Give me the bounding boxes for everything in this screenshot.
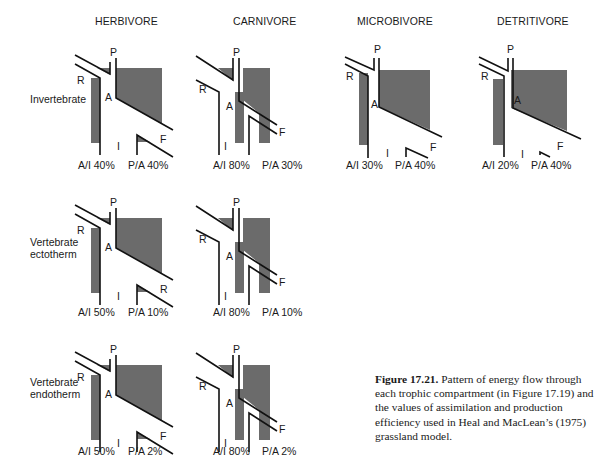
- label-bottom-right: R: [160, 283, 168, 295]
- label-r: R: [77, 74, 85, 86]
- production-efficiency-detritivore-invertebrate: P/A 40%: [531, 159, 571, 171]
- label-p: P: [374, 43, 381, 55]
- label-i: I: [224, 290, 227, 302]
- production-gray-block: [116, 218, 162, 274]
- panel-microbivore-invertebrate: RPAIF: [345, 43, 442, 159]
- assimilation-efficiency-herbivore-vertebrate-ectotherm: A/I 50%: [78, 306, 115, 318]
- label-bottom-right: F: [160, 133, 166, 145]
- label-bottom-right: F: [279, 126, 285, 138]
- label-r: R: [77, 371, 85, 383]
- assimilation-efficiency-detritivore-invertebrate: A/I 20%: [482, 159, 519, 171]
- label-i: I: [386, 147, 389, 159]
- assimilation-efficiency-herbivore-vertebrate-endotherm: A/I 50%: [78, 445, 115, 457]
- label-a: A: [226, 250, 233, 262]
- panel-carnivore-vertebrate-ectotherm: RPAIF: [196, 196, 285, 305]
- production-efficiency-carnivore-invertebrate: P/A 30%: [262, 159, 302, 171]
- label-a: A: [226, 100, 233, 112]
- feces-channel-line: [137, 135, 173, 157]
- label-bottom-right: F: [557, 140, 563, 152]
- label-r: R: [199, 380, 207, 392]
- respiration-gray-block: [493, 79, 503, 145]
- upper-channel-line: [75, 205, 110, 224]
- upper-channel-line: [75, 55, 110, 74]
- feces-channel-line: [137, 285, 173, 307]
- label-a: A: [226, 397, 233, 409]
- assimilation-efficiency-herbivore-invertebrate: A/I 40%: [78, 159, 115, 171]
- caption-label: Figure 17.21.: [375, 373, 438, 385]
- panel-herbivore-vertebrate-endotherm: RPAIF: [75, 343, 173, 454]
- assimilation-efficiency-carnivore-vertebrate-endotherm: A/I 80%: [213, 445, 250, 457]
- production-efficiency-microbivore-invertebrate: P/A 40%: [395, 159, 435, 171]
- upper-channel-line: [345, 57, 374, 70]
- panel-herbivore-invertebrate: RPAIF: [75, 46, 173, 157]
- label-r: R: [77, 224, 85, 236]
- production-gray-block: [116, 68, 162, 124]
- label-i: I: [521, 148, 524, 160]
- respiration-gray-block: [359, 73, 368, 145]
- upper-channel-line: [479, 57, 508, 71]
- panel-carnivore-vertebrate-endotherm: RPAIF: [196, 343, 285, 452]
- respiration-gray-block: [91, 78, 100, 143]
- label-bottom-right: F: [430, 141, 436, 153]
- production-efficiency-herbivore-vertebrate-endotherm: P/A 2%: [128, 445, 162, 457]
- feces-channel-line: [540, 152, 550, 157]
- label-a: A: [514, 94, 521, 106]
- production-efficiency-carnivore-vertebrate-ectotherm: P/A 10%: [262, 306, 302, 318]
- label-r: R: [346, 70, 354, 82]
- label-r: R: [199, 83, 207, 95]
- label-a: A: [105, 91, 112, 103]
- production-efficiency-herbivore-vertebrate-ectotherm: P/A 10%: [128, 306, 168, 318]
- label-p: P: [233, 46, 240, 58]
- feces-channel-line: [406, 148, 428, 158]
- upper-gray-wedge: [97, 365, 110, 372]
- label-a: A: [105, 241, 112, 253]
- label-p: P: [233, 196, 240, 208]
- label-p: P: [233, 343, 240, 355]
- label-bottom-right: F: [160, 430, 166, 442]
- figure-caption: Figure 17.21. Pattern of energy flow thr…: [375, 372, 605, 443]
- upper-gray-wedge: [97, 68, 110, 75]
- upper-channel-line: [75, 352, 110, 371]
- label-r: R: [481, 70, 489, 82]
- production-gray-block: [116, 365, 162, 421]
- panel-carnivore-invertebrate: RPAIF: [196, 46, 285, 155]
- label-i: I: [117, 437, 120, 449]
- label-p: P: [110, 46, 117, 58]
- production-efficiency-carnivore-vertebrate-endotherm: P/A 2%: [262, 445, 296, 457]
- label-i: I: [117, 290, 120, 302]
- label-a: A: [371, 98, 378, 110]
- respiration-gray-block: [91, 228, 100, 293]
- label-bottom-right: F: [279, 423, 285, 435]
- assimilation-efficiency-microbivore-invertebrate: A/I 30%: [346, 159, 383, 171]
- assimilation-efficiency-carnivore-vertebrate-ectotherm: A/I 80%: [213, 306, 250, 318]
- label-r: R: [199, 233, 207, 245]
- label-p: P: [110, 196, 117, 208]
- production-efficiency-herbivore-invertebrate: P/A 40%: [128, 159, 168, 171]
- label-bottom-right: F: [279, 276, 285, 288]
- production-gray-block: [379, 70, 430, 130]
- assimilation-efficiency-carnivore-invertebrate: A/I 80%: [213, 159, 250, 171]
- panel-herbivore-vertebrate-ectotherm: RPAIR: [75, 196, 173, 307]
- respiration-gray-block: [91, 375, 100, 440]
- label-p: P: [507, 43, 514, 55]
- upper-gray-wedge: [97, 218, 110, 225]
- label-p: P: [110, 343, 117, 355]
- label-i: I: [117, 140, 120, 152]
- label-a: A: [105, 388, 112, 400]
- panel-detritivore-invertebrate: RPAIF: [479, 43, 581, 160]
- label-i: I: [224, 140, 227, 152]
